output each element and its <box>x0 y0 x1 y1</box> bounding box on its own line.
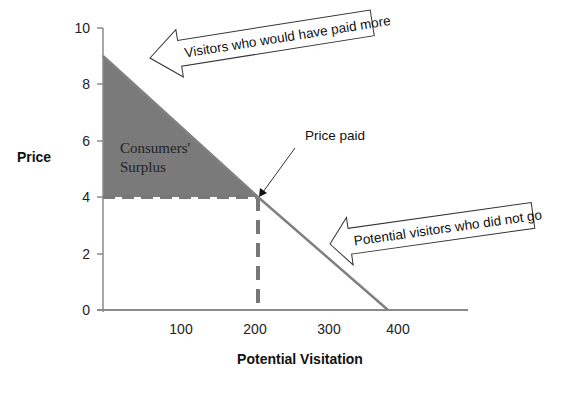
price-paid-arrow-shaft <box>263 148 295 192</box>
x-tick-200: 200 <box>243 321 267 337</box>
y-tick-6: 6 <box>82 133 90 149</box>
price-paid-arrowhead-icon <box>259 188 267 197</box>
price-paid-label: Price paid <box>305 128 365 143</box>
x-axis-title: Potential Visitation <box>237 351 363 367</box>
callout-top: Visitors who would have paid more <box>146 0 394 82</box>
surplus-label-line1: Consumers' <box>120 140 191 156</box>
y-tick-10: 10 <box>74 20 90 36</box>
x-tick-400: 400 <box>386 321 410 337</box>
surplus-label-line2: Surplus <box>120 159 166 175</box>
y-tick-8: 8 <box>82 76 90 92</box>
consumer-surplus-chart: 0 2 4 6 8 10 100 200 300 400 Price Poten… <box>0 0 563 394</box>
y-axis <box>97 28 103 312</box>
y-axis-title: Price <box>17 149 51 165</box>
y-tick-2: 2 <box>82 246 90 262</box>
y-tick-4: 4 <box>82 189 90 205</box>
y-tick-0: 0 <box>82 302 90 318</box>
x-tick-300: 300 <box>317 321 341 337</box>
x-tick-100: 100 <box>169 321 193 337</box>
callout-bottom: Potential visitors who did not go <box>327 190 545 267</box>
